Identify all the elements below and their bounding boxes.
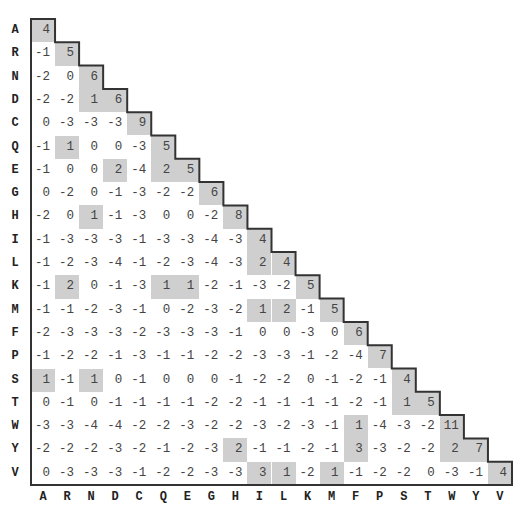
matrix-outline — [0, 0, 522, 517]
